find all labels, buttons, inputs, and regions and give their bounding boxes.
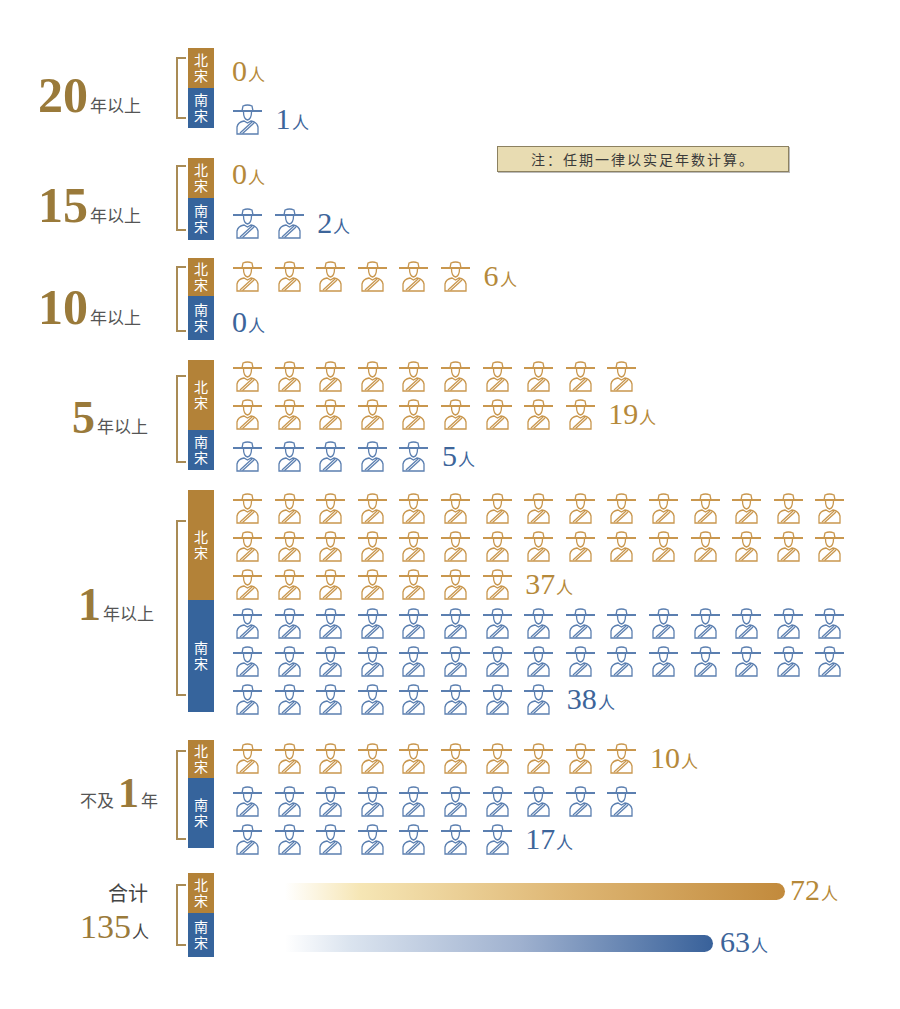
official-with-hat-icon (565, 742, 596, 774)
official-with-hat-icon (398, 568, 429, 600)
icons-lt1-north: 10人 (232, 742, 872, 780)
official-with-hat-icon (482, 360, 513, 392)
official-with-hat-icon (315, 742, 346, 774)
badge-north-song: 北宋 (188, 360, 214, 430)
official-with-hat-icon (274, 683, 305, 715)
official-with-hat-icon (357, 530, 388, 562)
official-with-hat-icon (232, 530, 263, 562)
official-with-hat-icon (731, 645, 762, 677)
official-with-hat-icon (773, 530, 804, 562)
official-with-hat-icon (398, 742, 429, 774)
icons-15plus-south: 2人 (232, 207, 872, 245)
official-with-hat-icon (274, 742, 305, 774)
official-with-hat-icon (315, 398, 346, 430)
official-with-hat-icon (315, 823, 346, 855)
badge-north-song: 北宋 (188, 740, 214, 778)
official-with-hat-icon (398, 398, 429, 430)
bracket (176, 375, 186, 463)
official-with-hat-icon (398, 492, 429, 524)
official-with-hat-icon (523, 683, 554, 715)
official-with-hat-icon (482, 568, 513, 600)
official-with-hat-icon (523, 492, 554, 524)
count-15plus-north: 0人 (232, 158, 265, 190)
icons-15plus-north: 0人 (232, 158, 872, 196)
official-with-hat-icon (274, 568, 305, 600)
count-15plus-south: 2人 (317, 207, 350, 239)
badge-north-song: 北宋 (188, 258, 214, 296)
official-with-hat-icon (565, 785, 596, 817)
official-with-hat-icon (232, 492, 263, 524)
official-with-hat-icon (274, 398, 305, 430)
official-with-hat-icon (232, 607, 263, 639)
official-with-hat-icon (274, 207, 305, 239)
badge-south-song: 南宋 (188, 778, 214, 848)
official-with-hat-icon (731, 530, 762, 562)
badge-north-song: 北宋 (188, 48, 214, 88)
official-with-hat-icon (315, 492, 346, 524)
official-with-hat-icon (315, 260, 346, 292)
official-with-hat-icon (606, 785, 637, 817)
category-suffix: 年以上 (103, 600, 154, 625)
total-bar-south-song (285, 935, 713, 952)
icons-20plus-south: 1人 (232, 103, 872, 141)
official-with-hat-icon (315, 785, 346, 817)
official-with-hat-icon (274, 530, 305, 562)
official-with-hat-icon (565, 360, 596, 392)
badge-north-song: 北宋 (188, 873, 214, 913)
official-with-hat-icon (523, 398, 554, 430)
count-20plus-south: 1人 (276, 103, 309, 135)
category-number: 20 (38, 70, 88, 120)
official-with-hat-icon (357, 260, 388, 292)
official-with-hat-icon (357, 398, 388, 430)
official-with-hat-icon (773, 645, 804, 677)
official-with-hat-icon (232, 645, 263, 677)
official-with-hat-icon (440, 568, 471, 600)
official-with-hat-icon (232, 823, 263, 855)
category-label-lt1: 不及 1 年 (78, 772, 158, 814)
official-with-hat-icon (315, 360, 346, 392)
official-with-hat-icon (690, 645, 721, 677)
official-with-hat-icon (274, 360, 305, 392)
badge-south-song: 南宋 (188, 600, 214, 712)
official-with-hat-icon (357, 492, 388, 524)
official-with-hat-icon (523, 360, 554, 392)
official-with-hat-icon (440, 360, 471, 392)
official-with-hat-icon (482, 398, 513, 430)
official-with-hat-icon (274, 440, 305, 472)
official-with-hat-icon (648, 492, 679, 524)
official-with-hat-icon (357, 823, 388, 855)
badge-south-song: 南宋 (188, 88, 214, 128)
count-5plus-north: 19人 (608, 398, 656, 430)
official-with-hat-icon (690, 492, 721, 524)
official-with-hat-icon (357, 607, 388, 639)
category-number: 1 (118, 772, 139, 814)
official-with-hat-icon (814, 607, 845, 639)
official-with-hat-icon (357, 683, 388, 715)
official-with-hat-icon (565, 530, 596, 562)
official-with-hat-icon (232, 360, 263, 392)
official-with-hat-icon (232, 568, 263, 600)
badge-south-song: 南宋 (188, 296, 214, 340)
category-label-10plus: 10 年以上 (38, 282, 141, 332)
official-with-hat-icon (814, 645, 845, 677)
official-with-hat-icon (398, 607, 429, 639)
official-with-hat-icon (274, 645, 305, 677)
official-with-hat-icon (440, 683, 471, 715)
official-with-hat-icon (523, 530, 554, 562)
official-with-hat-icon (482, 530, 513, 562)
official-with-hat-icon (274, 823, 305, 855)
official-with-hat-icon (440, 607, 471, 639)
official-with-hat-icon (232, 207, 263, 239)
official-with-hat-icon (606, 492, 637, 524)
official-with-hat-icon (357, 568, 388, 600)
category-suffix: 年以上 (90, 202, 141, 227)
official-with-hat-icon (648, 607, 679, 639)
bracket (176, 266, 186, 332)
icons-20plus-north: 0人 (232, 55, 872, 93)
total-count-north-song: 72人 (790, 873, 838, 907)
official-with-hat-icon (606, 530, 637, 562)
badge-south-song: 南宋 (188, 913, 214, 957)
official-with-hat-icon (274, 785, 305, 817)
count-1plus-south: 38人 (567, 683, 615, 715)
icons-5plus-south: 5人 (232, 440, 872, 478)
